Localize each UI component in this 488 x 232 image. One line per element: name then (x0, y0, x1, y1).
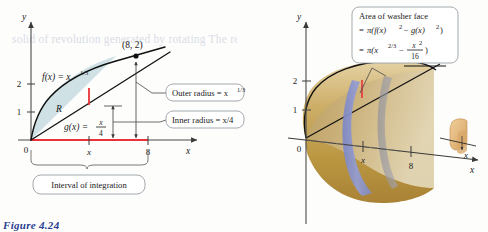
x-tick-right-label-x: x (360, 155, 365, 165)
point-label-8-2: (8, 2) (122, 40, 143, 51)
svg-text:f(x) = x: f(x) = x (42, 72, 71, 83)
svg-text:2/3: 2/3 (388, 42, 396, 49)
x-tick-right-label-8: 8 (409, 161, 414, 171)
leader-inner-radius (113, 120, 166, 122)
interval-of-integration-callout[interactable]: Interval of integration (33, 175, 145, 194)
svg-text:x: x (463, 150, 468, 160)
svg-text:g(x) =: g(x) = (64, 122, 88, 133)
origin-label-left: 0 (24, 145, 29, 155)
x-tick-label-x: x (86, 147, 91, 157)
svg-text:Interval of integration: Interval of integration (51, 180, 127, 190)
figure-svg: 1 2 0 x 8 x y (8, 2) R f( (0, 0, 488, 232)
y-axis-label-left: y (21, 12, 27, 22)
outer-radius-callout[interactable]: Outer radius = x 1/3 (166, 84, 245, 101)
svg-text:2: 2 (399, 23, 402, 30)
washer-area-callout[interactable]: Area of washer face = π(f(x) 2 − g(x) 2 … (352, 7, 458, 63)
svg-text:Outer radius = x: Outer radius = x (172, 88, 229, 98)
origin-label-right: 0 (297, 144, 302, 154)
svg-text:2: 2 (419, 39, 422, 46)
point-8-2 (133, 53, 138, 58)
y-tick-right-label-2: 2 (293, 76, 298, 86)
svg-text:−: − (399, 45, 404, 55)
figure-root: solid of revolution generated by rotatin… (0, 0, 488, 232)
right-panel: 1 2 0 x 8 x y Area of washer face = π(f(… (288, 7, 478, 224)
svg-text:− g(x): − g(x) (403, 25, 425, 35)
svg-text:): ) (425, 45, 428, 55)
y-tick-label-2: 2 (17, 79, 22, 89)
washer-disk-icon: x (440, 119, 476, 160)
left-panel: 1 2 0 x 8 x y (8, 2) R f( (17, 12, 245, 194)
svg-text:=: = (359, 25, 364, 35)
y-tick-right-label-1: 1 (293, 105, 298, 115)
svg-text:Inner radius = x/4: Inner radius = x/4 (172, 115, 234, 125)
svg-text:x: x (98, 118, 103, 127)
svg-text:Area of washer face: Area of washer face (359, 11, 428, 21)
x-axis-label-left: x (185, 146, 191, 156)
svg-text:π(x: π(x (367, 45, 378, 55)
region-label-R: R (55, 104, 62, 114)
leader-outer-radius (136, 82, 166, 93)
curve-f (31, 47, 165, 140)
svg-text:π(f(x): π(f(x) (367, 25, 386, 35)
svg-text:1/3: 1/3 (237, 86, 245, 93)
figure-caption: Figure 4.24 (3, 219, 59, 232)
svg-text:x: x (411, 41, 416, 50)
x-axis-label-right: x (469, 165, 475, 175)
inner-radius-callout[interactable]: Inner radius = x/4 (166, 111, 244, 128)
svg-text:2: 2 (436, 23, 439, 30)
y-axis-label-right: y (296, 12, 302, 22)
svg-text:16: 16 (411, 52, 419, 61)
svg-text:=: = (359, 45, 364, 55)
y-tick-label-1: 1 (17, 107, 22, 117)
curve-g-label: g(x) = x 4 (64, 118, 106, 138)
svg-text:4: 4 (99, 129, 103, 138)
svg-text:): ) (440, 25, 443, 35)
svg-text:1/3: 1/3 (80, 69, 88, 76)
